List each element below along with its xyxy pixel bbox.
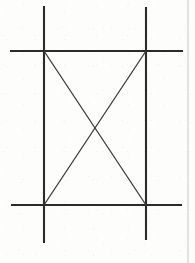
geometric-figure-drawing (0, 0, 195, 263)
figure-container (0, 0, 195, 263)
